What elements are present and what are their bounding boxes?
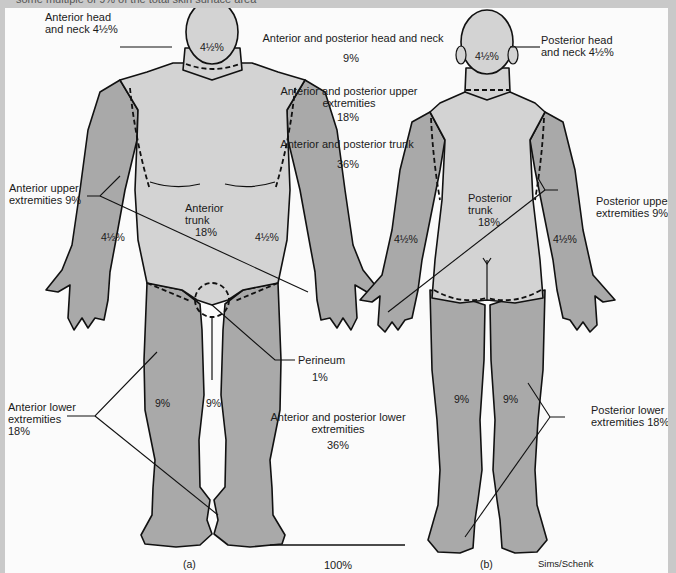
summary-trunk-value: 36%: [337, 158, 359, 171]
summary-lower-value: 36%: [327, 439, 349, 452]
callout-anterior-lower-3: 18%: [8, 425, 30, 438]
total-value: 100%: [324, 559, 352, 572]
anterior-left-leg: [141, 283, 212, 547]
anterior-head: [186, 8, 238, 64]
posterior-head: [461, 10, 513, 74]
summary-lower-label-2: extremities: [311, 423, 364, 436]
anterior-trunk-value: 18%: [195, 226, 217, 239]
callout-anterior-head-2: and neck 4½%: [45, 23, 118, 36]
posterior-head-value: 4½%: [475, 50, 499, 63]
illustrator-credit: Sims/Schenk: [538, 557, 593, 570]
anterior-head-value: 4½%: [200, 41, 224, 54]
summary-head-label: Anterior and posterior head and neck: [262, 32, 443, 45]
posterior-trunk-value: 18%: [478, 216, 500, 229]
posterior-right-leg-value: 9%: [503, 393, 518, 406]
anterior-left-arm-value: 4½%: [101, 231, 125, 244]
summary-head-value: 9%: [343, 52, 359, 65]
callout-posterior-head-2: and neck 4½%: [541, 46, 614, 59]
diagram-canvas: 4½% Anterior trunk 18% 4½% 4½% 9% 9% (a)…: [5, 8, 668, 573]
posterior-right-arm-value: 4½%: [553, 233, 577, 246]
posterior-right-leg: [490, 290, 547, 553]
callout-anterior-upper-2: extremities 9%: [9, 194, 81, 207]
callout-perineum-value: 1%: [312, 371, 328, 384]
posterior-panel-label: (b): [480, 558, 493, 571]
summary-upper-value: 18%: [337, 111, 359, 124]
posterior-left-leg: [428, 290, 485, 553]
callout-posterior-upper-2: extremities 9%: [596, 207, 668, 220]
anterior-right-leg-value: 9%: [206, 397, 221, 410]
summary-trunk-label: Anterior and posterior trunk: [280, 138, 413, 151]
posterior-left-arm-value: 4½%: [394, 233, 418, 246]
callout-posterior-lower-2: extremities 18%: [591, 416, 668, 429]
caption-strip: some multiple of 9% of the total skin su…: [0, 0, 676, 8]
caption-text: some multiple of 9% of the total skin su…: [16, 0, 256, 5]
callout-perineum-label: Perineum: [298, 354, 345, 367]
anterior-left-leg-value: 9%: [155, 397, 170, 410]
summary-upper-label-2: extremities: [322, 97, 375, 110]
anterior-right-arm-value: 4½%: [255, 231, 279, 244]
anterior-panel-label: (a): [183, 558, 196, 571]
anterior-right-arm: [287, 80, 379, 330]
posterior-left-leg-value: 9%: [454, 393, 469, 406]
